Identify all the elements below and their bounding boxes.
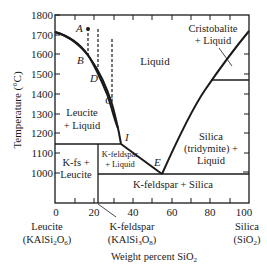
y-ticks-right: [244, 54, 249, 153]
svg-text:1600: 1600: [31, 48, 54, 60]
endmember-kfeldspar-formula: (KAlSi3O8): [108, 234, 157, 247]
cristobalite-leader: [219, 48, 232, 66]
endmember-leucite-formula: (KAlSi2O6): [23, 234, 72, 247]
point-label-E: E: [153, 156, 161, 168]
field-silica-liquid-line1: Silica: [199, 131, 223, 142]
svg-text:60: 60: [167, 206, 179, 218]
point-label-C: C: [105, 94, 113, 106]
field-kfs-leucite-line2: Leucite: [60, 169, 92, 180]
svg-text:1700: 1700: [31, 29, 54, 41]
svg-text:100: 100: [236, 206, 253, 218]
svg-text:0: 0: [53, 206, 59, 218]
field-silica-liquid-line2: (tridymite) +: [184, 143, 238, 155]
x-ticks-top: [75, 15, 230, 20]
svg-text:20: 20: [89, 206, 101, 218]
svg-text:1300: 1300: [31, 108, 54, 120]
phase-diagram: A B D C I E 1800 1700 1600 1500 1400 130…: [0, 0, 267, 265]
endmember-silica-formula: (SiO2): [234, 234, 261, 247]
x-axis-label: Weight percent SiO2: [111, 251, 198, 264]
svg-text:1000: 1000: [31, 167, 54, 179]
field-kfeldspar-liquid-line1: K-feldspar: [102, 149, 139, 159]
point-label-B: B: [77, 54, 84, 66]
field-silica-liquid-line3: Liquid: [197, 155, 226, 166]
field-liquid: Liquid: [140, 55, 170, 67]
field-cristobalite-liquid-line2: + Liquid: [195, 35, 232, 46]
point-A-marker: [86, 27, 90, 31]
field-cristobalite-liquid-line1: Cristobalite: [189, 23, 238, 34]
svg-text:1800: 1800: [31, 9, 54, 21]
kfeldspar-leader: [98, 204, 116, 217]
field-leucite-liquid-line2: + Liquid: [64, 120, 101, 131]
point-label-I: I: [124, 131, 130, 143]
svg-text:80: 80: [205, 206, 217, 218]
field-kfeldspar-liquid-line2: + Liquid: [105, 159, 135, 169]
field-kfeldspar-silica: K-feldspar + Silica: [133, 179, 213, 190]
endmember-kfeldspar: K-feldspar: [110, 221, 155, 232]
svg-text:1500: 1500: [31, 68, 54, 80]
endmember-silica: Silica: [235, 221, 259, 232]
field-kfs-leucite-line1: K-fs +: [62, 157, 89, 168]
y-tick-labels: 1800 1700 1600 1500 1400 1300 1200 1100 …: [31, 9, 54, 179]
y-axis-label: Temperature (°C): [11, 71, 24, 149]
point-label-D: D: [89, 72, 98, 84]
point-label-A: A: [75, 22, 83, 34]
svg-text:1200: 1200: [31, 127, 54, 139]
y-ticks-left: [55, 15, 60, 173]
svg-text:40: 40: [128, 206, 140, 218]
svg-text:1400: 1400: [31, 88, 54, 100]
x-tick-labels: 0 20 40 60 80 100: [53, 206, 253, 218]
endmember-leucite: Leucite: [31, 221, 63, 232]
svg-text:1100: 1100: [31, 147, 53, 159]
field-leucite-liquid-line1: Leucite: [66, 107, 98, 118]
